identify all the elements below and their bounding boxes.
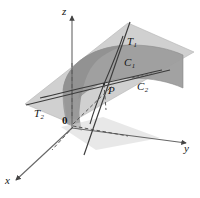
point-label-p: P bbox=[108, 85, 115, 96]
curve-label-c1-subscript: 1 bbox=[132, 62, 135, 69]
tangent-label-t1-subscript: 1 bbox=[133, 41, 136, 48]
curve-label-c2-subscript: 2 bbox=[145, 86, 148, 93]
tangent-label-t2: T2 bbox=[34, 108, 44, 121]
point-p-marker bbox=[103, 83, 105, 85]
origin-label: 0 bbox=[62, 115, 68, 126]
axis-label-y: y bbox=[184, 143, 189, 154]
axis-x bbox=[16, 128, 72, 180]
figure-canvas bbox=[0, 0, 200, 198]
axis-label-z: z bbox=[62, 6, 66, 17]
axis-label-x: x bbox=[5, 175, 10, 186]
curve-label-c2: C2 bbox=[137, 81, 148, 94]
tangent-plane-figure: z y x 0 P T1 T2 C1 C2 bbox=[0, 0, 200, 198]
tangent-label-t1: T1 bbox=[127, 36, 137, 49]
curve-label-c1: C1 bbox=[124, 57, 135, 70]
curve-label-c2-text: C bbox=[137, 80, 144, 92]
tangent-label-t2-subscript: 2 bbox=[40, 113, 43, 120]
curve-label-c1-text: C bbox=[124, 56, 131, 68]
